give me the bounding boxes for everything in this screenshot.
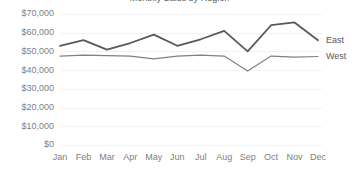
x-axis-tick-label: Mar [99,152,115,162]
x-axis-tick-label: Dec [310,152,327,162]
series-label-east: East [326,35,345,45]
x-axis-tick-label: Jan [53,152,68,162]
y-axis-tick-label: $20,000 [21,102,54,112]
x-axis-tick-label: Jun [170,152,185,162]
series-line-west[interactable] [60,55,318,71]
y-axis-tick-label: $40,000 [21,65,54,75]
y-axis-tick-label: $30,000 [21,83,54,93]
y-axis-tick-label: $10,000 [21,121,54,131]
x-axis-tick-label: Feb [76,152,92,162]
x-axis-tick-label: Apr [123,152,137,162]
y-axis-tick-label: $50,000 [21,46,54,56]
series-label-west: West [326,51,347,61]
x-axis-tick-label: Aug [216,152,232,162]
x-axis-tick-label: Oct [264,152,279,162]
y-axis-tick-label: $0 [44,139,54,149]
y-axis-tick-label: $60,000 [21,27,54,37]
x-axis-tick-label: Jul [195,152,207,162]
x-axis-tick-label: Nov [287,152,304,162]
y-axis-tick-label: $70,000 [21,8,54,18]
x-axis-tick-label: May [145,152,163,162]
series-line-east[interactable] [60,22,318,51]
x-axis-tick-label: Sep [240,152,256,162]
line-chart: Monthly Sales by Region $70,000$60,000$5… [0,0,359,173]
chart-plot-area: $70,000$60,000$50,000$40,000$30,000$20,0… [0,0,359,173]
